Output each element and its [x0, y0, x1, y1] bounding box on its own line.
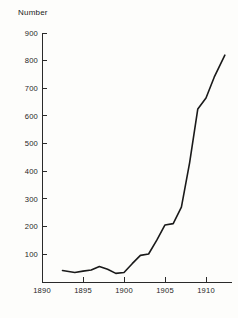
- y-tick-label: 600: [25, 112, 38, 121]
- y-tick-label: 400: [25, 167, 38, 176]
- x-tick-label: 1910: [197, 286, 215, 295]
- y-tick-label: 900: [25, 29, 38, 38]
- x-tick-label: 1900: [115, 286, 133, 295]
- x-axis-tick-labels: 18901895190019051910: [33, 286, 215, 295]
- y-tick-label: 100: [25, 250, 38, 259]
- x-tick-label: 1890: [33, 286, 51, 295]
- y-tick-label: 500: [25, 139, 38, 148]
- y-tick-label: 200: [25, 222, 38, 231]
- line-chart-figure: Number 100200300400500600700800900 18901…: [0, 0, 238, 318]
- x-tick-label: 1895: [74, 286, 92, 295]
- x-tick-label: 1905: [156, 286, 174, 295]
- y-tick-label: 800: [25, 56, 38, 65]
- data-series-line: [63, 55, 225, 273]
- chart-plot-area: 100200300400500600700800900 189018951900…: [0, 0, 238, 318]
- y-axis-tick-labels: 100200300400500600700800900: [25, 29, 38, 259]
- y-tick-label: 300: [25, 195, 38, 204]
- axis-tick-marks: [42, 33, 206, 282]
- y-tick-label: 700: [25, 84, 38, 93]
